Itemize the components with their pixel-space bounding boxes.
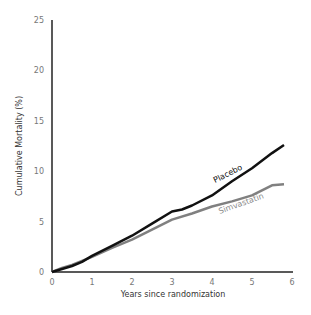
x-tick-label: 4 xyxy=(209,278,214,287)
x-tick-label: 0 xyxy=(49,278,54,287)
series-lines xyxy=(52,145,284,272)
y-tick-label: 0 xyxy=(39,268,44,277)
x-tick-label: 5 xyxy=(249,278,254,287)
x-axis-label: Years since randomization xyxy=(120,290,226,299)
x-tick-label: 6 xyxy=(289,278,294,287)
y-axis-ticks: 0510152025 xyxy=(34,16,44,277)
y-tick-label: 25 xyxy=(34,16,44,25)
y-tick-label: 20 xyxy=(34,66,44,75)
x-tick-label: 1 xyxy=(89,278,94,287)
y-tick-label: 10 xyxy=(34,167,44,176)
placebo-series-label: Placebo xyxy=(212,163,244,185)
y-tick-label: 15 xyxy=(34,117,44,126)
y-axis-label: Cumulative Mortality (%) xyxy=(15,96,24,196)
x-axis-ticks: 0123456 xyxy=(49,278,294,287)
y-tick-label: 5 xyxy=(39,218,44,227)
placebo-line xyxy=(52,145,284,272)
cumulative-mortality-chart: 0510152025 0123456 Cumulative Mortality … xyxy=(0,0,311,315)
x-tick-label: 3 xyxy=(169,278,174,287)
x-tick-label: 2 xyxy=(129,278,134,287)
